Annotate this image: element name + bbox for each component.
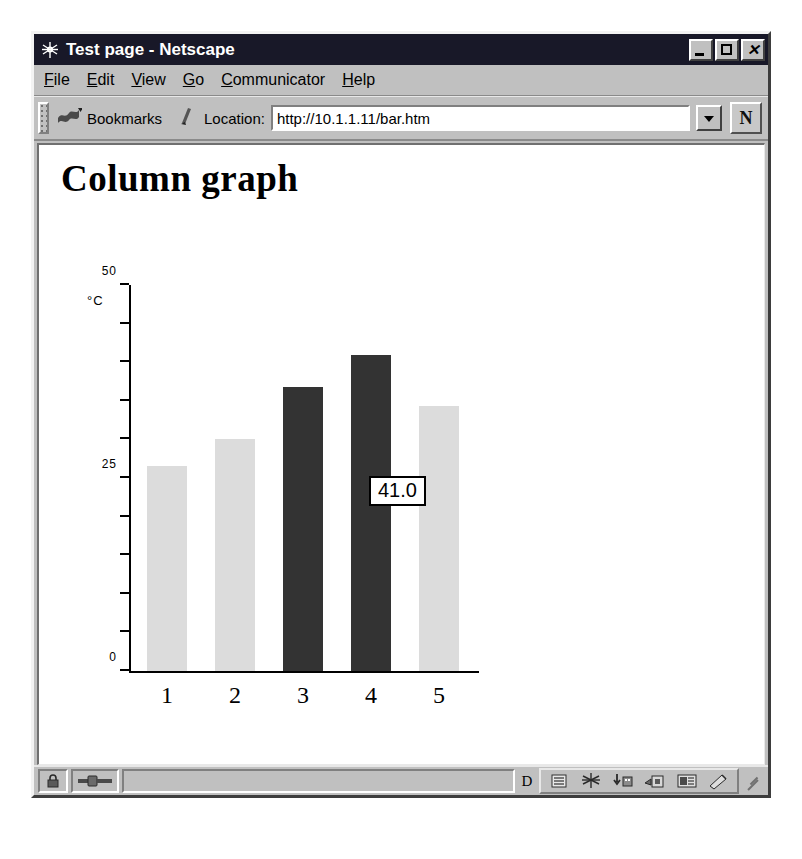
- toolbar-grip-handle[interactable]: [38, 102, 49, 134]
- status-bar: D: [34, 765, 768, 795]
- chart-plot-area: 50 25 0 1 2 3 4 5: [129, 285, 479, 673]
- address-book-icon[interactable]: [640, 771, 670, 792]
- close-button[interactable]: ✕: [741, 39, 765, 61]
- y-axis-tick: [120, 437, 129, 439]
- y-axis-tick: [120, 283, 129, 285]
- netscape-ship-icon: [40, 40, 60, 60]
- content-area-wrapper: Column graph °C: [34, 141, 768, 765]
- y-axis-tick: [120, 360, 129, 362]
- menu-bar: File Edit View Go Communicator Help: [34, 65, 768, 96]
- column-graph: °C: [63, 255, 493, 685]
- menu-item-go[interactable]: Go: [183, 71, 204, 89]
- location-page-icon: [176, 105, 198, 131]
- y-axis-tick-label-50: 50: [102, 264, 117, 278]
- y-axis-tick: [120, 476, 129, 478]
- menu-item-communicator[interactable]: Communicator: [221, 71, 325, 89]
- bookmarks-label: Bookmarks: [87, 110, 162, 127]
- x-axis-line: [129, 671, 479, 673]
- location-group: Location:: [176, 105, 722, 131]
- bar-value-tooltip: 41.0: [369, 476, 426, 506]
- maximize-button[interactable]: [715, 39, 739, 61]
- url-history-dropdown-button[interactable]: [696, 105, 722, 131]
- y-axis-line: [129, 285, 131, 673]
- bar-3[interactable]: [283, 387, 323, 671]
- y-axis-tick: [120, 322, 129, 324]
- y-axis-tick: [120, 399, 129, 401]
- bookmarks-button[interactable]: Bookmarks: [56, 105, 162, 131]
- x-axis-tick-label-4: 4: [365, 682, 377, 709]
- component-bar: [539, 768, 739, 794]
- editor-pen-icon[interactable]: [704, 771, 734, 792]
- bookmark-flag-icon: [56, 105, 82, 131]
- location-label: Location:: [204, 110, 265, 127]
- y-axis-tick: [120, 515, 129, 517]
- location-toolbar: Bookmarks Location: N: [34, 96, 768, 141]
- y-axis-tick: [120, 553, 129, 555]
- status-message: [122, 769, 515, 793]
- document-done-mark: D: [518, 773, 536, 790]
- connection-plug-icon[interactable]: [71, 769, 119, 793]
- bar-1[interactable]: [147, 466, 187, 671]
- bar-2[interactable]: [215, 439, 255, 671]
- y-axis-tick-label-0: 0: [109, 650, 117, 664]
- page-title: Column graph: [61, 157, 298, 200]
- x-axis-tick-label-3: 3: [297, 682, 309, 709]
- y-axis-tick: [120, 669, 129, 671]
- netscape-browser-screenshot: Test page - Netscape ✕ File Edit View Go…: [0, 0, 802, 859]
- url-input-box[interactable]: [271, 105, 690, 131]
- menu-item-file[interactable]: File: [44, 71, 70, 89]
- bar-5[interactable]: [419, 406, 459, 671]
- window-resize-grip[interactable]: [744, 770, 764, 792]
- x-axis-tick-label-5: 5: [433, 682, 445, 709]
- composer-icon[interactable]: [672, 771, 702, 792]
- y-axis-tick: [120, 630, 129, 632]
- minimize-button[interactable]: [689, 39, 713, 61]
- menu-item-help[interactable]: Help: [342, 71, 375, 89]
- netscape-n-logo: N: [732, 104, 760, 132]
- y-axis-unit-label: °C: [87, 293, 104, 308]
- x-axis-tick-label-2: 2: [229, 682, 241, 709]
- url-input[interactable]: [273, 110, 688, 127]
- page-content: Column graph °C: [37, 143, 765, 765]
- browser-window: Test page - Netscape ✕ File Edit View Go…: [31, 31, 771, 798]
- menu-item-view[interactable]: View: [131, 71, 165, 89]
- bar-4[interactable]: [351, 355, 391, 672]
- y-axis-tick: [120, 592, 129, 594]
- x-axis-tick-label-1: 1: [161, 682, 173, 709]
- y-axis-tick-label-25: 25: [102, 457, 117, 471]
- newsgroup-icon[interactable]: [608, 771, 638, 792]
- security-padlock-icon[interactable]: [38, 769, 68, 793]
- title-bar[interactable]: Test page - Netscape ✕: [34, 34, 768, 65]
- navigator-icon[interactable]: [544, 771, 574, 792]
- window-controls: ✕: [689, 39, 765, 61]
- window-title: Test page - Netscape: [66, 40, 689, 60]
- netscape-logo-button[interactable]: N: [730, 102, 762, 134]
- menu-item-edit[interactable]: Edit: [87, 71, 115, 89]
- mailbox-icon[interactable]: [576, 771, 606, 792]
